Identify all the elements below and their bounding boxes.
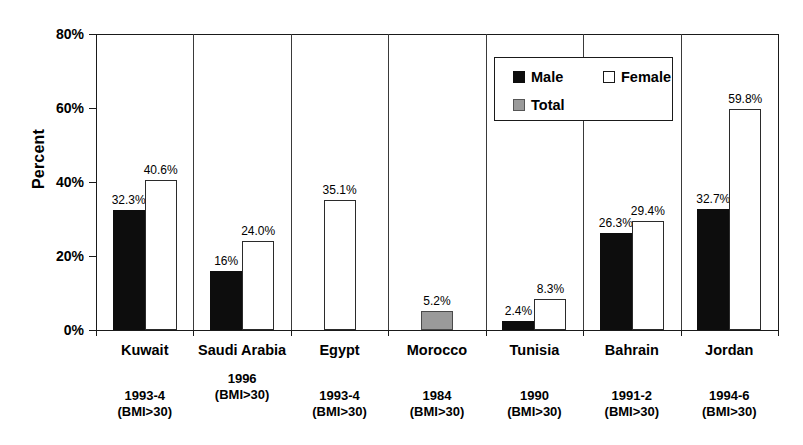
category-name: Kuwait bbox=[96, 342, 193, 359]
x-axis-category-kuwait: Kuwait1993-4(BMI>30) bbox=[96, 342, 193, 420]
bar-value-label: 40.6% bbox=[131, 164, 191, 176]
legend-swatch-total-icon bbox=[513, 99, 525, 111]
category-separator bbox=[291, 34, 292, 330]
category-criteria: (BMI>30) bbox=[388, 404, 485, 420]
plot-top-border bbox=[96, 34, 778, 35]
bar-bahrain-male bbox=[600, 233, 632, 330]
bar-value-label: 24.0% bbox=[228, 225, 288, 237]
bar-tunisia-male bbox=[502, 321, 534, 330]
bar-value-label: 29.4% bbox=[618, 205, 678, 217]
category-spacer bbox=[583, 359, 680, 388]
y-axis-tick-mark bbox=[89, 34, 96, 35]
category-spacer bbox=[193, 359, 290, 371]
category-separator bbox=[193, 34, 194, 330]
category-year: 1993-4 bbox=[291, 388, 388, 404]
bar-egypt-female bbox=[324, 200, 356, 330]
x-axis-tick-mark bbox=[193, 330, 194, 336]
y-axis-tick-label: 80% bbox=[28, 27, 84, 41]
legend-item-male[interactable]: Male bbox=[513, 70, 563, 85]
x-axis-tick-mark bbox=[96, 330, 97, 336]
x-axis-category-morocco: Morocco1984(BMI>30) bbox=[388, 342, 485, 420]
bar-saudi-arabia-female bbox=[242, 241, 274, 330]
legend-item-total[interactable]: Total bbox=[513, 98, 565, 113]
bar-value-label: 35.1% bbox=[310, 184, 370, 196]
category-year: 1993-4 bbox=[96, 388, 193, 404]
x-axis-category-jordan: Jordan1994-6(BMI>30) bbox=[681, 342, 778, 420]
y-axis-tick-label: 60% bbox=[28, 101, 84, 115]
y-axis-line bbox=[96, 34, 97, 330]
category-separator bbox=[681, 34, 682, 330]
category-name: Jordan bbox=[681, 342, 778, 359]
category-spacer bbox=[291, 359, 388, 388]
bar-value-label: 59.8% bbox=[715, 93, 775, 105]
x-axis-tick-mark bbox=[486, 330, 487, 336]
x-axis-category-tunisia: Tunisia1990(BMI>30) bbox=[486, 342, 583, 420]
category-spacer bbox=[96, 359, 193, 388]
category-year: 1994-6 bbox=[681, 388, 778, 404]
category-name: Bahrain bbox=[583, 342, 680, 359]
bar-jordan-female bbox=[729, 109, 761, 330]
obesity-bar-chart: Percent 80%60%40%20%0% 32.3%40.6%16%24.0… bbox=[0, 0, 803, 445]
bar-value-label: 8.3% bbox=[520, 283, 580, 295]
y-axis-tick-label: 0% bbox=[28, 323, 84, 337]
legend-label: Female bbox=[621, 70, 671, 85]
bar-value-label: 5.2% bbox=[407, 295, 467, 307]
category-year: 1990 bbox=[486, 388, 583, 404]
y-axis-tick-mark bbox=[89, 108, 96, 109]
legend-swatch-female-icon bbox=[603, 71, 615, 83]
legend-label: Total bbox=[531, 98, 565, 113]
legend-item-female[interactable]: Female bbox=[603, 70, 671, 85]
category-separator bbox=[388, 34, 389, 330]
category-spacer bbox=[388, 359, 485, 388]
x-axis-line bbox=[95, 330, 779, 331]
category-spacer bbox=[681, 359, 778, 388]
category-separator bbox=[486, 34, 487, 330]
category-criteria: (BMI>30) bbox=[291, 404, 388, 420]
x-axis-tick-mark bbox=[583, 330, 584, 336]
x-axis-category-egypt: Egypt1993-4(BMI>30) bbox=[291, 342, 388, 420]
category-year: 1984 bbox=[388, 388, 485, 404]
bar-jordan-male bbox=[697, 209, 729, 330]
category-criteria: (BMI>30) bbox=[681, 404, 778, 420]
x-axis-tick-mark bbox=[681, 330, 682, 336]
category-name: Saudi Arabia bbox=[193, 342, 290, 359]
category-name: Egypt bbox=[291, 342, 388, 359]
category-year: 1996 bbox=[193, 371, 290, 387]
y-axis-tick-label: 40% bbox=[28, 175, 84, 189]
x-axis-category-bahrain: Bahrain1991-2(BMI>30) bbox=[583, 342, 680, 420]
category-criteria: (BMI>30) bbox=[486, 404, 583, 420]
y-axis-tick-mark bbox=[89, 182, 96, 183]
plot-right-border bbox=[778, 34, 779, 330]
bar-kuwait-male bbox=[113, 210, 145, 330]
legend: MaleFemaleTotal bbox=[494, 57, 673, 121]
y-axis-tick-mark bbox=[89, 256, 96, 257]
bar-morocco-total bbox=[421, 311, 453, 330]
bar-bahrain-female bbox=[632, 221, 664, 330]
bar-saudi-arabia-male bbox=[210, 271, 242, 330]
y-axis-tick-label: 20% bbox=[28, 249, 84, 263]
x-axis-tick-mark bbox=[778, 330, 779, 336]
legend-swatch-male-icon bbox=[513, 71, 525, 83]
bar-kuwait-female bbox=[145, 180, 177, 330]
x-axis-tick-mark bbox=[291, 330, 292, 336]
x-axis-category-saudi-arabia: Saudi Arabia1996(BMI>30) bbox=[193, 342, 290, 403]
category-year: 1991-2 bbox=[583, 388, 680, 404]
category-name: Tunisia bbox=[486, 342, 583, 359]
category-spacer bbox=[486, 359, 583, 388]
category-criteria: (BMI>30) bbox=[583, 404, 680, 420]
category-criteria: (BMI>30) bbox=[193, 387, 290, 403]
category-name: Morocco bbox=[388, 342, 485, 359]
bar-tunisia-female bbox=[534, 299, 566, 330]
legend-label: Male bbox=[531, 70, 563, 85]
category-criteria: (BMI>30) bbox=[96, 404, 193, 420]
x-axis-tick-mark bbox=[388, 330, 389, 336]
